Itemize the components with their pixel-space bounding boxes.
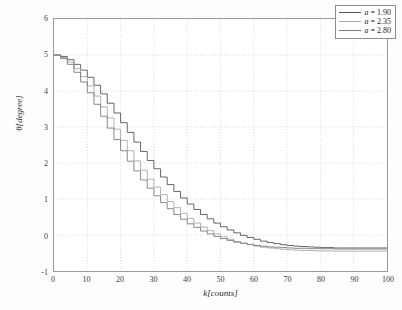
legend-item: a = 1.90 xyxy=(339,8,391,17)
legend: a = 1.90a = 2.35a = 2.80 xyxy=(335,5,396,39)
legend-item-label: a = 1.90 xyxy=(364,8,391,17)
legend-line-swatch xyxy=(339,21,361,22)
x-tick-label: 10 xyxy=(72,275,102,284)
x-tick-label: 80 xyxy=(306,275,336,284)
x-axis-label: k[counts] xyxy=(53,288,388,298)
legend-item-label: a = 2.35 xyxy=(364,17,391,26)
figure-canvas: -10123456 0102030405060708090100 θ[degre… xyxy=(0,0,402,310)
x-tick-label: 60 xyxy=(239,275,269,284)
x-tick-label: 100 xyxy=(373,275,402,284)
legend-line-swatch xyxy=(339,12,361,13)
legend-line-swatch xyxy=(339,30,361,31)
legend-item-label: a = 2.80 xyxy=(364,26,391,35)
x-tick-label: 30 xyxy=(139,275,169,284)
x-axis-tick-labels: 0102030405060708090100 xyxy=(0,0,402,310)
x-tick-label: 90 xyxy=(340,275,370,284)
x-tick-label: 0 xyxy=(38,275,68,284)
x-tick-label: 20 xyxy=(105,275,135,284)
x-tick-label: 50 xyxy=(206,275,236,284)
x-tick-label: 40 xyxy=(172,275,202,284)
x-tick-label: 70 xyxy=(273,275,303,284)
y-axis-label: θ[degree] xyxy=(14,58,24,168)
legend-item: a = 2.80 xyxy=(339,26,391,35)
legend-item: a = 2.35 xyxy=(339,17,391,26)
